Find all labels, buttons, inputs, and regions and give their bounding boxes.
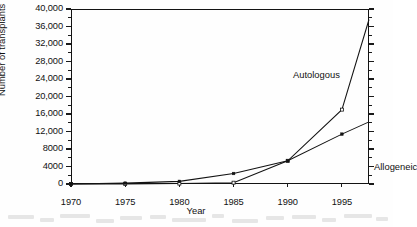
series-line-allogeneic	[71, 122, 369, 184]
datapoint-marker-allogeneic	[286, 160, 289, 163]
series-annotation-allogeneic: Allogeneic	[374, 161, 417, 172]
datapoint-marker-allogeneic	[178, 180, 181, 183]
y-tick-major-right	[369, 183, 374, 184]
y-tick-label: 40,000	[35, 4, 63, 13]
y-tick-label: 32,000	[35, 39, 63, 48]
data-layer	[71, 9, 369, 184]
y-tick-minor-right	[369, 52, 372, 53]
datapoint-marker-autologous	[340, 108, 343, 111]
series-line-autologous	[71, 20, 369, 185]
y-tick-label: 16,000	[35, 109, 63, 118]
y-tick-major-right	[369, 61, 374, 62]
y-tick-label: 4000	[43, 162, 63, 171]
y-tick-minor-right	[369, 157, 372, 158]
datapoint-marker-allogeneic	[70, 183, 73, 186]
y-tick-major-right	[369, 131, 374, 132]
datapoint-marker-allogeneic	[341, 133, 344, 136]
y-tick-label: 0	[58, 179, 63, 188]
y-tick-minor-right	[369, 175, 372, 176]
scan-noise-artifact	[0, 212, 393, 227]
y-tick-major-right	[369, 8, 374, 9]
y-tick-label: 8000	[43, 144, 63, 153]
y-tick-major-right	[369, 96, 374, 97]
datapoint-marker-allogeneic	[232, 172, 235, 175]
y-tick-label: 36,000	[35, 22, 63, 31]
x-tick-label: 1985	[223, 198, 243, 207]
y-tick-major-right	[369, 26, 374, 27]
x-tick-label: 1970	[61, 198, 81, 207]
y-tick-major-right	[369, 148, 374, 149]
x-tick-label: 1995	[332, 198, 352, 207]
datapoint-marker-autologous	[232, 181, 235, 184]
plot-area: 04000800012,00016,00020,00024,00028,0003…	[71, 9, 369, 184]
y-tick-label: 20,000	[35, 92, 63, 101]
y-tick-minor-right	[369, 35, 372, 36]
x-tick-label: 1990	[278, 198, 298, 207]
x-tick-label: 1975	[115, 198, 135, 207]
y-tick-label: 12,000	[35, 127, 63, 136]
y-tick-label: 24,000	[35, 74, 63, 83]
y-tick-major-right	[369, 113, 374, 114]
series-annotation-autologous: Autologous	[293, 69, 340, 80]
datapoint-marker-allogeneic	[124, 182, 127, 185]
y-tick-major-right	[369, 78, 374, 79]
y-tick-minor-right	[369, 140, 372, 141]
series-group	[70, 20, 370, 186]
y-tick-minor-right	[369, 105, 372, 106]
y-tick-major-right	[369, 166, 374, 167]
y-tick-minor-right	[369, 70, 372, 71]
y-axis-title: Number of transplants	[0, 4, 7, 96]
y-tick-minor-right	[369, 122, 372, 123]
y-tick-minor-right	[369, 87, 372, 88]
y-tick-label: 28,000	[35, 57, 63, 66]
y-tick-minor-right	[369, 17, 372, 18]
y-tick-major-right	[369, 43, 374, 44]
